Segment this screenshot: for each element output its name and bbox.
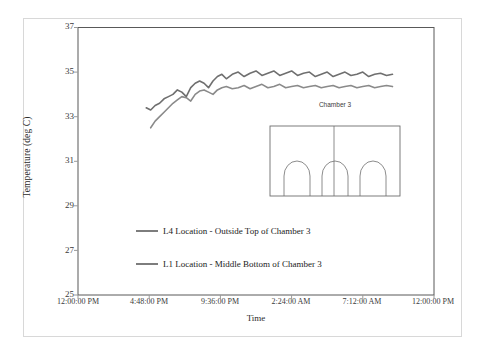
x-axis-ticks bbox=[78, 295, 434, 299]
chart-figure: Temperature (deg C) 37 35 33 31 29 27 25… bbox=[0, 0, 488, 355]
plot-canvas bbox=[0, 0, 488, 355]
inset-diagram bbox=[270, 126, 400, 196]
series-line-l1 bbox=[151, 84, 393, 127]
y-axis-ticks bbox=[74, 28, 78, 296]
series-line-l4 bbox=[146, 71, 392, 110]
